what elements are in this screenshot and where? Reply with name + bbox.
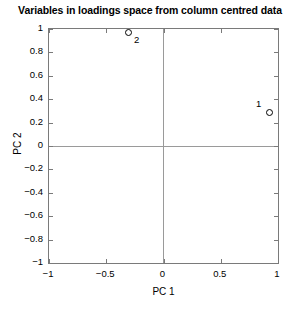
y-tick-mark: [49, 263, 53, 264]
x-axis-label: PC 1: [48, 286, 279, 297]
y-tick-label: −0.8: [0, 233, 43, 244]
y-tick-mark-right: [274, 99, 278, 100]
y-tick-mark-right: [274, 169, 278, 170]
x-tick-mark: [106, 259, 107, 263]
y-tick-label: −1: [0, 256, 43, 267]
y-tick-label: 0.4: [0, 92, 43, 103]
plot-area: 12: [48, 28, 279, 264]
x-tick-mark-top: [106, 29, 107, 33]
x-tick-mark-top: [278, 29, 279, 33]
y-tick-mark: [49, 52, 53, 53]
chart-title: Variables in loadings space from column …: [0, 4, 300, 16]
y-tick-mark: [49, 76, 53, 77]
data-point-marker[interactable]: [266, 109, 273, 116]
y-tick-mark-right: [274, 146, 278, 147]
y-tick-mark-right: [274, 240, 278, 241]
x-tick-label: 0: [143, 268, 183, 279]
y-tick-label: −0.6: [0, 209, 43, 220]
y-tick-mark-right: [274, 123, 278, 124]
y-tick-mark: [49, 99, 53, 100]
x-tick-label: 1: [257, 268, 297, 279]
x-tick-label: −0.5: [85, 268, 125, 279]
zero-line-vertical: [163, 29, 164, 263]
y-tick-mark: [49, 169, 53, 170]
x-tick-label: −1: [28, 268, 68, 279]
y-axis-label: PC 2: [12, 114, 23, 174]
y-tick-mark-right: [274, 193, 278, 194]
y-tick-label: −0.4: [0, 186, 43, 197]
y-tick-label: 0.8: [0, 45, 43, 56]
y-tick-mark-right: [274, 76, 278, 77]
x-tick-mark: [49, 259, 50, 263]
y-tick-mark-right: [274, 263, 278, 264]
x-tick-mark: [164, 259, 165, 263]
x-tick-mark-top: [164, 29, 165, 33]
y-tick-mark-right: [274, 216, 278, 217]
x-tick-mark: [278, 259, 279, 263]
data-point-label: 1: [256, 98, 261, 109]
data-point-marker[interactable]: [125, 29, 132, 36]
x-tick-mark-top: [221, 29, 222, 33]
y-tick-mark: [49, 123, 53, 124]
y-tick-mark: [49, 193, 53, 194]
scatter-chart-figure: Variables in loadings space from column …: [0, 0, 300, 310]
x-tick-mark-top: [49, 29, 50, 33]
y-tick-mark: [49, 216, 53, 217]
y-tick-mark-right: [274, 52, 278, 53]
x-tick-mark: [221, 259, 222, 263]
y-tick-mark: [49, 240, 53, 241]
data-point-label: 2: [134, 34, 139, 45]
y-tick-label: 0.6: [0, 69, 43, 80]
x-tick-label: 0.5: [200, 268, 240, 279]
y-tick-label: 1: [0, 22, 43, 33]
y-tick-mark: [49, 146, 53, 147]
